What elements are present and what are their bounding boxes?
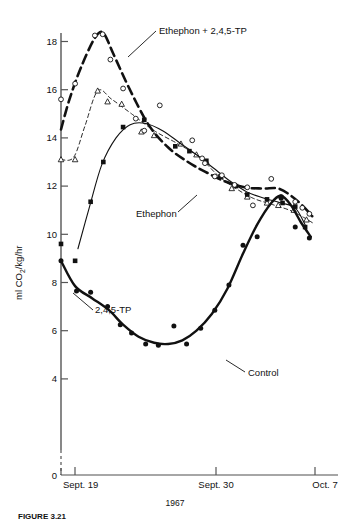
data-point-marker [143, 341, 148, 346]
y-tick-label-18: 18 [46, 36, 57, 47]
data-point-marker [187, 149, 192, 154]
y-axis-title: ml CO2/kg/hr [13, 246, 26, 300]
data-point-marker [142, 128, 147, 133]
data-point-marker [73, 259, 78, 264]
data-point-marker [232, 182, 237, 187]
data-point-marker [190, 138, 195, 143]
data-point-marker [121, 86, 126, 91]
data-point-marker [212, 174, 217, 179]
data-point-marker [198, 326, 203, 331]
data-point-marker [293, 225, 298, 230]
leader-control [226, 360, 245, 372]
data-point-marker [100, 32, 105, 37]
y-tick-label-12: 12 [46, 180, 57, 191]
data-point-marker [119, 101, 125, 106]
data-point-marker [265, 197, 270, 202]
series-label-ethephon-tp: Ethephon + 2,4,5-TP [159, 25, 247, 36]
leader-ethephon [178, 195, 197, 212]
data-point-marker [279, 196, 284, 201]
data-point-marker [269, 176, 274, 181]
y-tick-label-10: 10 [46, 229, 57, 240]
data-point-marker [108, 57, 113, 62]
y-tick-label-4: 4 [52, 373, 57, 384]
data-point-marker [133, 116, 138, 121]
data-point-marker [74, 288, 79, 293]
annotation-leaders [73, 31, 245, 372]
y-tick-label-0: 0 [52, 470, 57, 481]
axis-group [61, 33, 338, 475]
series-label-ethephon: Ethephon [136, 208, 177, 219]
figure-caption: FIGURE 3.21 [18, 512, 67, 520]
series-trend-line [61, 196, 311, 344]
x-tick-label-oct7: Oct. 7 [312, 479, 337, 490]
y-tick-label-8: 8 [52, 277, 57, 288]
respiration-chart: 18 16 14 12 10 8 6 4 0 ml CO2/kg/hr Sept… [0, 0, 346, 520]
data-point-marker [200, 156, 205, 161]
y-axis-title-rest: /kg/hr [13, 246, 24, 270]
data-point-marker [59, 258, 64, 263]
data-point-marker [59, 242, 64, 247]
x-axis-year-label: 1967 [166, 498, 185, 508]
data-point-marker [251, 203, 256, 208]
data-point-marker [72, 157, 78, 162]
data-point-marker [92, 33, 97, 38]
y-tick-label-6: 6 [52, 325, 57, 336]
data-point-marker [171, 323, 176, 328]
data-point-marker [307, 235, 312, 240]
x-tick-label-sept19: Sept. 19 [63, 479, 98, 490]
series-control [59, 196, 312, 348]
series-ethephon [58, 88, 313, 224]
series-label-control: Control [248, 367, 279, 378]
data-point-marker [121, 125, 126, 130]
data-point-marker [105, 99, 111, 104]
data-point-marker [300, 205, 305, 210]
x-tick-group [61, 467, 315, 475]
series-label-tp: 2,4,5-TP [95, 304, 131, 315]
series-2-4-5-tp [59, 118, 308, 264]
y-tick-label-16: 16 [46, 84, 57, 95]
y-tick-group [61, 42, 68, 379]
svg-text:ml CO2/kg/hr: ml CO2/kg/hr [13, 246, 26, 300]
series-trend-line [61, 32, 312, 216]
data-point-marker [212, 308, 217, 313]
data-point-marker [184, 341, 189, 346]
data-point-marker [59, 97, 64, 102]
data-point-marker [58, 157, 64, 162]
data-point-marker [101, 160, 106, 165]
series-ethephon-2-4-5-tp [59, 32, 313, 216]
data-point-marker [88, 199, 93, 204]
figure-root: 18 16 14 12 10 8 6 4 0 ml CO2/kg/hr Sept… [0, 0, 346, 520]
data-point-marker [241, 243, 246, 248]
data-point-marker [129, 331, 134, 336]
data-point-marker [293, 199, 298, 204]
leader-ethephon-tp [128, 31, 156, 57]
data-point-marker [307, 211, 312, 216]
data-point-marker [95, 88, 101, 93]
data-point-marker [245, 185, 250, 190]
data-point-marker [156, 343, 161, 348]
y-tick-label-14: 14 [46, 132, 57, 143]
y-axis-title-main: ml CO [13, 273, 24, 300]
data-point-marker [157, 103, 162, 108]
data-point-marker [245, 192, 250, 197]
data-point-marker [118, 322, 123, 327]
data-point-marker [88, 290, 93, 295]
data-point-marker [203, 161, 208, 166]
plot-layer [58, 32, 313, 348]
data-point-marker [219, 173, 224, 178]
data-point-marker [173, 144, 178, 149]
data-point-marker [255, 234, 260, 239]
data-point-marker [280, 201, 285, 206]
data-point-marker [226, 282, 231, 287]
data-point-marker [73, 81, 78, 86]
x-tick-label-sept30: Sept. 30 [198, 479, 233, 490]
